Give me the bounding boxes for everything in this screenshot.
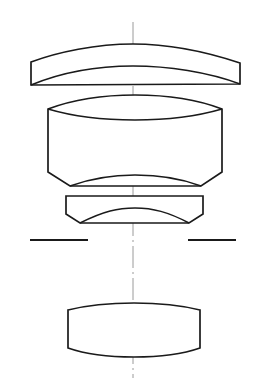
lens-element-1-outline	[31, 44, 240, 85]
lens-element-3-group	[66, 196, 203, 223]
lens-element-4-group	[68, 303, 200, 357]
lens-system-svg	[0, 0, 254, 391]
lens-element-2-group	[48, 95, 222, 186]
lens-element-1-group	[31, 44, 240, 85]
optical-diagram-root	[0, 0, 254, 391]
lens-element-4-outline	[68, 303, 200, 357]
lens-element-2-outline	[48, 95, 222, 186]
